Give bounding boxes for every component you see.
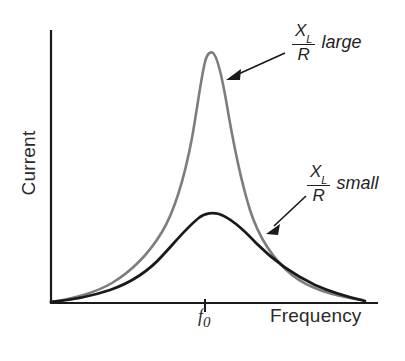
fraction-numerator: XL bbox=[292, 22, 315, 44]
x-axis-label: Frequency bbox=[270, 305, 362, 327]
numerator-symbol: X bbox=[295, 21, 306, 40]
resonance-curve-figure: Current Frequency f0 XL R large XL R sma… bbox=[0, 0, 405, 361]
fraction-xl-over-r-small: XL R bbox=[307, 163, 330, 204]
annotation-xl-over-r-small: XL R small bbox=[307, 163, 378, 204]
tick-label-subscript: 0 bbox=[203, 314, 211, 330]
fraction-numerator: XL bbox=[307, 163, 330, 185]
arrow-to-low-q-curve bbox=[266, 196, 306, 235]
annotation-qualifier-small: small bbox=[336, 173, 378, 194]
numerator-subscript: L bbox=[321, 174, 327, 186]
fraction-xl-over-r-large: XL R bbox=[292, 22, 315, 63]
annotation-qualifier-large: large bbox=[321, 32, 361, 53]
fraction-denominator: R bbox=[307, 185, 330, 204]
arrow-to-high-q-curve bbox=[226, 53, 285, 80]
annotation-xl-over-r-large: XL R large bbox=[292, 22, 362, 63]
numerator-subscript: L bbox=[306, 33, 312, 45]
x-tick-label-f0: f0 bbox=[198, 306, 211, 331]
numerator-symbol: X bbox=[310, 162, 321, 181]
y-axis-label: Current bbox=[18, 113, 40, 213]
fraction-denominator: R bbox=[292, 44, 315, 63]
